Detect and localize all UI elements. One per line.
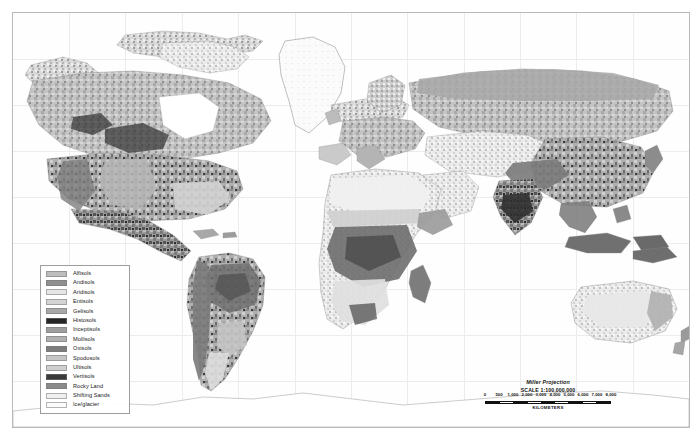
legend-label-aridisols: Aridisols xyxy=(73,288,95,297)
legend-swatch-alfisols xyxy=(46,271,67,277)
scale-bar: 0 500 1,000 2,000 3,000 4,000 xyxy=(483,395,613,411)
scale-tick-label-8: 7,000 xyxy=(592,392,603,397)
scale-bar-segment xyxy=(583,402,597,403)
scale-tick-label-2: 1,000 xyxy=(508,392,519,397)
scale-bar-graphic xyxy=(485,401,611,404)
legend-swatch-entisols xyxy=(46,299,67,305)
legend-label-histosols: Histosols xyxy=(73,316,96,325)
legend-swatch-inceptisols xyxy=(46,327,67,333)
legend-item-spodosols[interactable]: Spodosols xyxy=(46,354,125,363)
legend-swatch-rocky-land xyxy=(46,383,67,389)
legend-label-shifting-sands: Shifting Sands xyxy=(73,391,110,400)
legend-swatch-spodosols xyxy=(46,355,67,361)
scale-tick-label-3: 2,000 xyxy=(522,392,533,397)
legend-item-shifting-sands[interactable]: Shifting Sands xyxy=(46,391,125,400)
legend-label-rocky-land: Rocky Land xyxy=(73,382,103,391)
legend-label-andisols: Andisols xyxy=(73,278,95,287)
legend-swatch-vertisols xyxy=(46,374,67,380)
soil-order-legend[interactable]: Alfisols Andisols Aridisols Entisols Gel… xyxy=(40,265,130,414)
legend-swatch-ultisols xyxy=(46,365,67,371)
legend-label-ultisols: Ultisols xyxy=(73,363,91,372)
scale-bar-segment xyxy=(597,402,610,403)
legend-item-gelisols[interactable]: Gelisols xyxy=(46,307,125,316)
legend-swatch-aridisols xyxy=(46,289,67,295)
legend-item-histosols[interactable]: Histosols xyxy=(46,316,125,325)
scale-tick-label-6: 5,000 xyxy=(564,392,575,397)
legend-label-mollisols: Mollisols xyxy=(73,335,95,344)
legend-swatch-shifting-sands xyxy=(46,393,67,399)
scale-block: Miller Projection SCALE 1:100,000,000 0 … xyxy=(483,379,613,411)
scale-bar-segment xyxy=(555,402,569,403)
legend-label-ice-glacier: Ice/glacier xyxy=(73,400,99,409)
legend-item-andisols[interactable]: Andisols xyxy=(46,278,125,287)
legend-item-alfisols[interactable]: Alfisols xyxy=(46,269,125,278)
scale-tick-label-4: 3,000 xyxy=(536,392,547,397)
world-map-frame[interactable]: Alfisols Andisols Aridisols Entisols Gel… xyxy=(12,12,690,428)
scale-bar-segment xyxy=(514,402,528,403)
legend-label-oxisols: Oxisols xyxy=(73,344,92,353)
legend-label-alfisols: Alfisols xyxy=(73,269,91,278)
legend-item-entisols[interactable]: Entisols xyxy=(46,297,125,306)
legend-label-inceptisols: Inceptisols xyxy=(73,325,100,334)
legend-swatch-gelisols xyxy=(46,308,67,314)
map-page: Alfisols Andisols Aridisols Entisols Gel… xyxy=(0,0,700,441)
scale-bar-segment xyxy=(569,402,583,403)
scale-bar-segment xyxy=(528,402,542,403)
scale-tick-label-1: 500 xyxy=(495,392,502,397)
scale-tick-label-0: 0 xyxy=(484,392,486,397)
scale-bar-segment xyxy=(542,402,556,403)
legend-label-spodosols: Spodosols xyxy=(73,354,100,363)
legend-item-oxisols[interactable]: Oxisols xyxy=(46,344,125,353)
legend-item-inceptisols[interactable]: Inceptisols xyxy=(46,325,125,334)
scale-tick-label-9: 8,000 xyxy=(606,392,617,397)
legend-item-ultisols[interactable]: Ultisols xyxy=(46,363,125,372)
scale-bar-segment xyxy=(500,402,514,403)
legend-item-aridisols[interactable]: Aridisols xyxy=(46,288,125,297)
projection-label: Miller Projection xyxy=(483,379,613,385)
legend-label-gelisols: Gelisols xyxy=(73,307,93,316)
legend-swatch-oxisols xyxy=(46,346,67,352)
legend-item-rocky-land[interactable]: Rocky Land xyxy=(46,382,125,391)
legend-item-vertisols[interactable]: Vertisols xyxy=(46,372,125,381)
legend-swatch-mollisols xyxy=(46,336,67,342)
legend-label-vertisols: Vertisols xyxy=(73,372,95,381)
legend-item-mollisols[interactable]: Mollisols xyxy=(46,335,125,344)
legend-label-entisols: Entisols xyxy=(73,297,93,306)
legend-item-ice-glacier[interactable]: Ice/glacier xyxy=(46,400,125,409)
legend-swatch-ice-glacier xyxy=(46,402,67,408)
legend-swatch-andisols xyxy=(46,280,67,286)
scale-tick-label-7: 6,000 xyxy=(578,392,589,397)
scale-tick-label-5: 4,000 xyxy=(550,392,561,397)
distance-units-label: KILOMETERS xyxy=(483,405,613,410)
legend-swatch-histosols xyxy=(46,318,67,324)
scale-bar-segment xyxy=(486,402,500,403)
